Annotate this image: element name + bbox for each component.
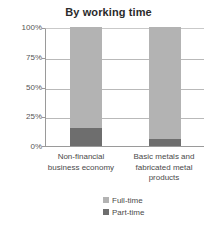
x-category-label-1: Basic metals and fabricated metal produc… xyxy=(124,152,204,184)
bar-segment-part-time[interactable] xyxy=(70,128,102,146)
y-tick-label-25: 25% xyxy=(2,113,42,121)
chart-container: By working time 100% 75% 50% 25% 0% Non-… xyxy=(0,0,217,230)
bar-basic-metals-and-fabricated-metal-products[interactable] xyxy=(149,27,181,146)
bar-segment-full-time[interactable] xyxy=(149,27,181,139)
legend-label-part-time: Part-time xyxy=(112,208,144,217)
legend-swatch-full-time-icon xyxy=(103,197,109,203)
plot-area xyxy=(45,28,204,147)
legend: Full-time Part-time xyxy=(0,194,217,218)
legend-item-part-time[interactable]: Part-time xyxy=(0,206,217,218)
chart-title: By working time xyxy=(0,6,217,19)
x-category-label-0: Non-financial business economy xyxy=(44,152,118,173)
y-axis: 100% 75% 50% 25% 0% xyxy=(0,28,42,147)
y-tick-label-0: 0% xyxy=(2,143,42,151)
bar-non-financial-business-economy[interactable] xyxy=(70,27,102,146)
legend-swatch-part-time-icon xyxy=(103,209,109,215)
y-tick-label-75: 75% xyxy=(2,54,42,62)
bar-segment-full-time[interactable] xyxy=(70,27,102,128)
bar-segment-part-time[interactable] xyxy=(149,139,181,146)
legend-item-full-time[interactable]: Full-time xyxy=(0,194,217,206)
y-tick-label-50: 50% xyxy=(2,84,42,92)
legend-label-full-time: Full-time xyxy=(112,196,143,205)
y-tick-label-100: 100% xyxy=(2,24,42,32)
